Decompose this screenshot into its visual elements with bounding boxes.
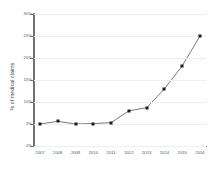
data-point bbox=[181, 64, 184, 67]
gridline bbox=[34, 14, 206, 15]
x-tick-label: 2016 bbox=[195, 150, 204, 156]
y-tick-mark bbox=[30, 36, 34, 37]
y-tick-mark bbox=[30, 102, 34, 103]
line-chart: % of medical claims 0%5%10%15%20%25%30% … bbox=[0, 0, 212, 180]
x-tick-label: 2011 bbox=[107, 150, 116, 156]
data-point bbox=[163, 87, 166, 90]
x-tick-label: 2015 bbox=[178, 150, 187, 156]
x-tick-label: 2014 bbox=[160, 150, 169, 156]
data-point bbox=[92, 122, 95, 125]
data-point bbox=[56, 120, 59, 123]
y-tick-mark bbox=[30, 14, 34, 15]
y-tick-mark bbox=[30, 124, 34, 125]
y-tick-mark bbox=[30, 58, 34, 59]
x-tick-label: 2013 bbox=[142, 150, 151, 156]
x-tick-label: 2012 bbox=[124, 150, 133, 156]
x-axis-tick-labels: 2007200820092010201120122013201420152016 bbox=[34, 150, 206, 162]
data-point bbox=[110, 121, 113, 124]
x-tick-label: 2007 bbox=[35, 150, 44, 156]
plot-area bbox=[34, 14, 206, 146]
gridline bbox=[34, 146, 206, 147]
x-tick-label: 2008 bbox=[53, 150, 62, 156]
data-point bbox=[39, 123, 42, 126]
x-tick-label: 2009 bbox=[71, 150, 80, 156]
data-point bbox=[199, 35, 202, 38]
gridline bbox=[34, 58, 206, 59]
x-tick-label: 2010 bbox=[89, 150, 98, 156]
data-point bbox=[74, 123, 77, 126]
y-tick-mark bbox=[30, 80, 34, 81]
gridline bbox=[34, 80, 206, 81]
gridline bbox=[34, 124, 206, 125]
gridline bbox=[34, 102, 206, 103]
gridline bbox=[34, 36, 206, 37]
data-point bbox=[145, 106, 148, 109]
data-point bbox=[127, 109, 130, 112]
y-tick-mark bbox=[30, 146, 34, 147]
